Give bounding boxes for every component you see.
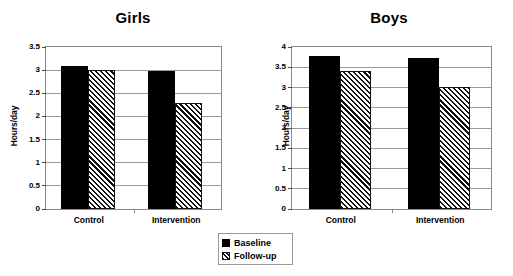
x-axis-category-label: Intervention [133, 215, 221, 225]
y-axis-tick-label: 0.5 [29, 182, 40, 190]
y-axis-tick [288, 168, 292, 169]
chart-panel-girls: Girls Hours/day 00.511.522.533.5 Control… [0, 0, 250, 232]
bar-boys-control-follow-up [340, 71, 371, 210]
y-axis-tick [42, 139, 46, 140]
y-axis-tick [42, 93, 46, 94]
legend-item-followup: Follow-up [222, 249, 289, 262]
y-axis-tick-label: 1 [36, 159, 40, 167]
category-separator-tick [134, 209, 135, 213]
legend-swatch-baseline-icon [222, 239, 230, 247]
y-axis-tick-label: 3.5 [275, 63, 286, 71]
y-axis-tick-label: 1.5 [275, 144, 286, 152]
bar-girls-control-baseline [61, 66, 88, 209]
legend-label-baseline: Baseline [234, 238, 271, 248]
legend-label-followup: Follow-up [234, 251, 277, 261]
chart-title-boys: Boys [255, 9, 513, 27]
y-axis-tick [42, 209, 46, 210]
bar-boys-intervention-baseline [408, 58, 439, 209]
legend-item-baseline: Baseline [222, 236, 289, 249]
bar-boys-control-baseline [309, 56, 340, 209]
y-axis-tick-label: 2.5 [275, 104, 286, 112]
y-axis-tick [42, 47, 46, 48]
y-axis-tick [288, 87, 292, 88]
legend-swatch-followup-icon [222, 252, 230, 260]
bar-girls-intervention-baseline [148, 71, 175, 209]
y-axis-tick [42, 185, 46, 186]
bar-girls-intervention-follow-up [175, 103, 202, 209]
y-axis-tick-label: 3.5 [29, 43, 40, 51]
y-axis-tick [42, 116, 46, 117]
plot-area-boys: 00.511.522.533.54 [291, 46, 492, 210]
y-axis-tick [288, 188, 292, 189]
y-axis-tick-label: 2 [282, 124, 286, 132]
y-axis-tick [288, 209, 292, 210]
y-axis-tick-label: 2 [36, 112, 40, 120]
y-axis-tick-label: 0 [36, 205, 40, 213]
y-axis-tick-label: 1 [282, 165, 286, 173]
y-axis-tick [288, 128, 292, 129]
y-axis-tick [42, 162, 46, 163]
y-axis-tick-label: 0 [282, 205, 286, 213]
x-axis-category-label: Control [45, 215, 133, 225]
y-axis-tick [288, 107, 292, 108]
y-axis-tick [42, 70, 46, 71]
x-axis-category-label: Intervention [391, 215, 491, 225]
y-axis-title-girls: Hours/day [9, 96, 19, 156]
chart-title-girls: Girls [0, 9, 250, 27]
y-axis-tick [288, 47, 292, 48]
chart-panel-boys: Boys Hours/day 00.511.522.533.54 Control… [255, 0, 513, 232]
figure: Girls Hours/day 00.511.522.533.5 Control… [0, 0, 513, 276]
plot-area-girls: 00.511.522.533.5 [45, 46, 222, 210]
legend: Baseline Follow-up [218, 233, 293, 265]
category-separator-tick [392, 209, 393, 213]
y-axis-tick-label: 1.5 [29, 136, 40, 144]
x-axis-category-label: Control [291, 215, 391, 225]
y-axis-tick [288, 67, 292, 68]
bar-boys-intervention-follow-up [439, 87, 470, 209]
y-axis-tick-label: 2.5 [29, 89, 40, 97]
bar-girls-control-follow-up [88, 70, 115, 209]
y-axis-tick [288, 148, 292, 149]
y-axis-tick-label: 3 [282, 84, 286, 92]
y-axis-tick-label: 0.5 [275, 185, 286, 193]
y-axis-tick-label: 4 [282, 43, 286, 51]
y-axis-tick-label: 3 [36, 66, 40, 74]
